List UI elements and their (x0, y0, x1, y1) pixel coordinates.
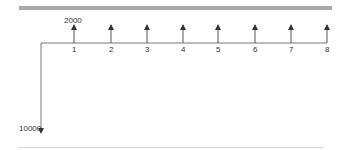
outflow-amount-label: 10000 (19, 125, 41, 133)
bottom-divider-line (18, 147, 323, 148)
period-label-4: 4 (181, 46, 185, 54)
cash-flow-diagram (0, 0, 344, 150)
period-label-2: 2 (109, 46, 113, 54)
period-label-8: 8 (325, 46, 329, 54)
period-label-5: 5 (216, 46, 220, 54)
period-label-3: 3 (145, 46, 149, 54)
inflow-amount-label: 2000 (64, 17, 82, 25)
period-label-7: 7 (289, 46, 293, 54)
period-label-6: 6 (253, 46, 257, 54)
period-label-1: 1 (72, 46, 76, 54)
